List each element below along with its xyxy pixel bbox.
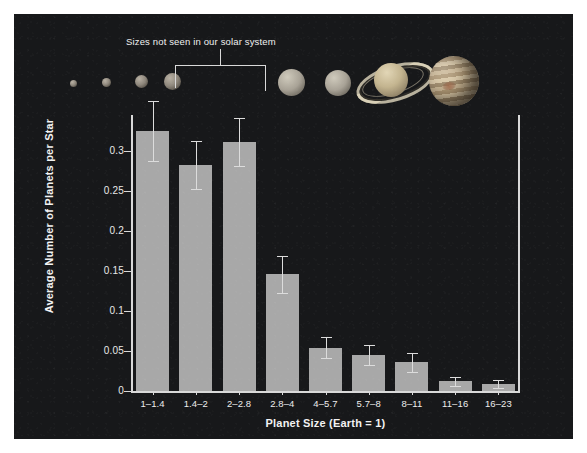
chart-figure: Sizes not seen in our solar system 00.05…	[14, 14, 573, 439]
error-bar-cap-lower	[493, 388, 504, 389]
error-bar	[153, 101, 154, 162]
y-tick-label-wrap: 0.25	[78, 186, 124, 196]
error-bar-cap-lower	[277, 293, 288, 294]
y-tick-label-wrap: 0	[78, 386, 124, 396]
error-bar-cap-lower	[234, 166, 245, 167]
y-tick-mark	[124, 191, 131, 192]
error-bar	[326, 337, 327, 358]
y-tick-label-wrap: 0.2	[78, 226, 124, 236]
x-tick-mark	[498, 391, 499, 395]
y-tick-label: 0	[90, 386, 124, 396]
x-tick-mark	[239, 391, 240, 395]
x-tick-mark	[412, 391, 413, 395]
y-axis-title: Average Number of Planets per Star	[43, 106, 55, 326]
x-tick-label: 8–11	[390, 398, 433, 409]
error-bar-cap-upper	[191, 141, 202, 142]
y-tick-mark	[124, 151, 131, 152]
y-tick-mark	[124, 231, 131, 232]
error-bar	[455, 377, 456, 387]
y-tick-label-wrap: 0.05	[78, 346, 124, 356]
figure-page: Sizes not seen in our solar system 00.05…	[0, 0, 587, 453]
error-bar	[196, 141, 197, 189]
y-tick-label: 0.15	[90, 266, 124, 276]
y-axis-line	[131, 115, 133, 392]
y-tick-mark	[124, 271, 131, 272]
y-tick-label: 0.1	[90, 306, 124, 316]
bar	[223, 142, 256, 391]
error-bar	[239, 118, 240, 166]
bar	[136, 131, 169, 391]
error-bar-cap-upper	[364, 345, 375, 346]
error-bar-cap-upper	[493, 380, 504, 381]
error-bar	[369, 345, 370, 366]
plot-area: 00.050.10.150.20.250.3 Average Number of…	[14, 14, 573, 439]
y-tick-mark	[124, 311, 131, 312]
x-tick-label: 4–5.7	[304, 398, 347, 409]
error-bar-cap-lower	[191, 189, 202, 190]
y-tick-label: 0.3	[90, 146, 124, 156]
error-bar	[282, 256, 283, 293]
y-tick-label: 0.2	[90, 226, 124, 236]
y-tick-label-wrap: 0.3	[78, 146, 124, 156]
x-tick-mark	[153, 391, 154, 395]
bar	[179, 165, 212, 391]
x-tick-mark	[369, 391, 370, 395]
x-tick-label: 11–16	[434, 398, 477, 409]
error-bar-cap-upper	[148, 101, 159, 102]
error-bar-cap-lower	[450, 386, 461, 387]
x-axis-title: Planet Size (Earth = 1)	[131, 417, 520, 429]
x-tick-mark	[196, 391, 197, 395]
x-tick-label: 1–1.4	[131, 398, 174, 409]
error-bar-cap-lower	[407, 372, 418, 373]
error-bar-cap-upper	[321, 337, 332, 338]
y-tick-label-wrap: 0.15	[78, 266, 124, 276]
x-tick-mark	[326, 391, 327, 395]
x-tick-mark	[455, 391, 456, 395]
error-bar-cap-lower	[364, 365, 375, 366]
y-tick-mark	[124, 391, 131, 392]
x-tick-label: 16–23	[477, 398, 520, 409]
error-bar-cap-upper	[450, 377, 461, 378]
error-bar	[412, 353, 413, 372]
error-bar-cap-upper	[277, 256, 288, 257]
right-spine-line	[518, 115, 520, 393]
x-tick-label: 1.4–2	[174, 398, 217, 409]
y-tick-label: 0.25	[90, 186, 124, 196]
x-tick-label: 2–2.8	[217, 398, 260, 409]
y-tick-label-wrap: 0.1	[78, 306, 124, 316]
x-tick-label: 2.8–4	[261, 398, 304, 409]
error-bar-cap-upper	[234, 118, 245, 119]
error-bar-cap-lower	[321, 358, 332, 359]
x-tick-mark	[282, 391, 283, 395]
x-tick-label: 5.7–8	[347, 398, 390, 409]
y-tick-label: 0.05	[90, 346, 124, 356]
y-tick-mark	[124, 351, 131, 352]
error-bar-cap-lower	[148, 161, 159, 162]
error-bar-cap-upper	[407, 353, 418, 354]
error-bar	[498, 380, 499, 388]
